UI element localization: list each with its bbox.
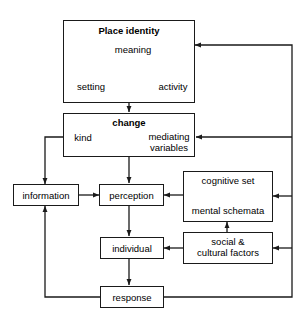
label-kind: kind <box>66 132 100 143</box>
arrow-kind-information <box>45 137 63 184</box>
change-heading: change <box>63 117 195 128</box>
flow-diagram: Place identity meaning setting activity … <box>0 0 308 321</box>
label-response: response <box>100 292 164 303</box>
label-setting: setting <box>70 81 112 92</box>
label-mediating-variables: mediating variables <box>144 131 194 153</box>
label-information: information <box>13 190 79 201</box>
arrow-response-information <box>45 206 100 297</box>
label-mental-schemata: mental schemata <box>182 205 274 216</box>
place-identity-heading: Place identity <box>63 25 195 36</box>
label-cognitive-set: cognitive set <box>183 175 273 186</box>
label-perception: perception <box>99 190 164 201</box>
label-activity: activity <box>152 81 194 92</box>
label-social-cultural-factors: social & cultural factors <box>183 236 273 258</box>
label-individual: individual <box>100 243 164 254</box>
label-meaning: meaning <box>98 44 168 55</box>
label-cultural-factors: cultural factors <box>197 247 259 258</box>
label-social: social & <box>211 236 244 247</box>
label-variables: variables <box>150 142 188 153</box>
label-mediating: mediating <box>148 131 189 142</box>
